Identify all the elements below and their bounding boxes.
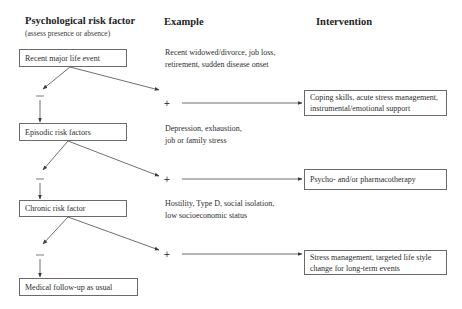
arrow-present-3: [68, 217, 159, 250]
risk-box-episodic-risk-factors: Episodic risk factors: [19, 123, 127, 141]
present-sign-3: +: [164, 250, 170, 260]
example-1-line-1: Recent widowed/divorce, job loss,: [165, 47, 275, 59]
risk-box-recent-major-life-event: Recent major life event: [19, 49, 127, 67]
risk-label: Chronic risk factor: [25, 203, 85, 214]
intervention-box-1: Coping skills, acute stress management, …: [304, 90, 447, 116]
present-sign-1: +: [164, 99, 170, 109]
header-intervention: Intervention: [316, 16, 372, 27]
intervention-2-line-1: Psycho- and/or pharmacotherapy: [310, 174, 416, 185]
example-2-line-2: job or family stress: [165, 135, 227, 147]
example-3-line-1: Hostility, Type D, social isolation,: [165, 198, 274, 210]
final-box-medical-follow-up: Medical follow-up as usual: [19, 278, 138, 296]
arrow-absent-2: [43, 141, 68, 170]
present-sign-2: +: [164, 175, 170, 185]
intervention-3-line-2: change for long-term events: [310, 263, 400, 274]
header-example: Example: [164, 16, 204, 27]
arrow-absent-1: [43, 67, 70, 89]
intervention-1-line-2: instrumental/emotional support: [310, 103, 410, 114]
intervention-box-3: Stress management, targeted life style c…: [304, 250, 447, 275]
final-label: Medical follow-up as usual: [25, 282, 112, 293]
header-risk-factor: Psychological risk factor: [25, 15, 135, 26]
risk-box-chronic-risk-factor: Chronic risk factor: [19, 200, 127, 217]
intervention-3-line-1: Stress management, targeted life style: [310, 252, 431, 263]
arrow-absent-3: [43, 217, 68, 244]
intervention-1-line-1: Coping skills, acute stress management,: [310, 92, 438, 103]
arrow-present-2: [68, 141, 159, 176]
arrow-present-1: [70, 67, 159, 90]
example-2-line-1: Depression, exhaustion,: [165, 123, 242, 135]
risk-label: Episodic risk factors: [25, 127, 91, 138]
header-risk-factor-subtitle: (assess presence or absence): [25, 29, 110, 38]
risk-label: Recent major life event: [25, 53, 100, 64]
intervention-box-2: Psycho- and/or pharmacotherapy: [304, 169, 447, 190]
example-1-line-2: retirement, sudden disease onset: [165, 59, 269, 71]
example-3-line-2: low socioeconomic status: [165, 210, 247, 222]
